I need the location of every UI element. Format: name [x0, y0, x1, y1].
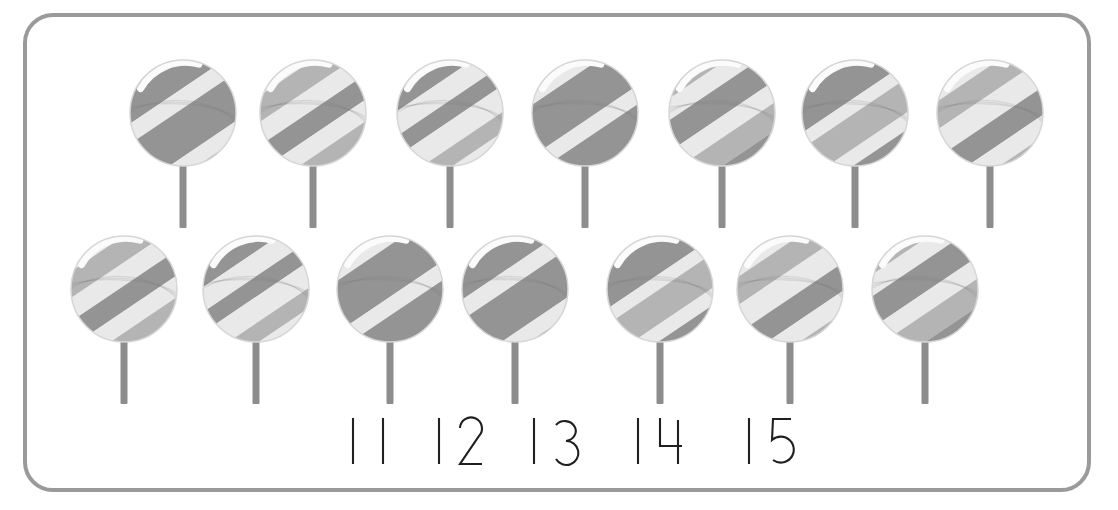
worksheet-canvas	[0, 0, 1118, 510]
lollipop-stick	[387, 334, 394, 404]
lollipop-stick	[253, 334, 260, 404]
numeral-label	[428, 414, 488, 468]
lollipop-stick	[121, 334, 128, 404]
numeral-row	[0, 414, 1118, 474]
numeral-label	[627, 414, 687, 468]
numeral-label	[738, 414, 798, 468]
numeral-label	[523, 414, 583, 468]
lollipop-stick	[657, 334, 664, 404]
lollipop-stick	[787, 334, 794, 404]
lollipop-stick	[922, 334, 929, 404]
lollipop-stick	[512, 334, 519, 404]
numeral-label	[342, 414, 402, 468]
